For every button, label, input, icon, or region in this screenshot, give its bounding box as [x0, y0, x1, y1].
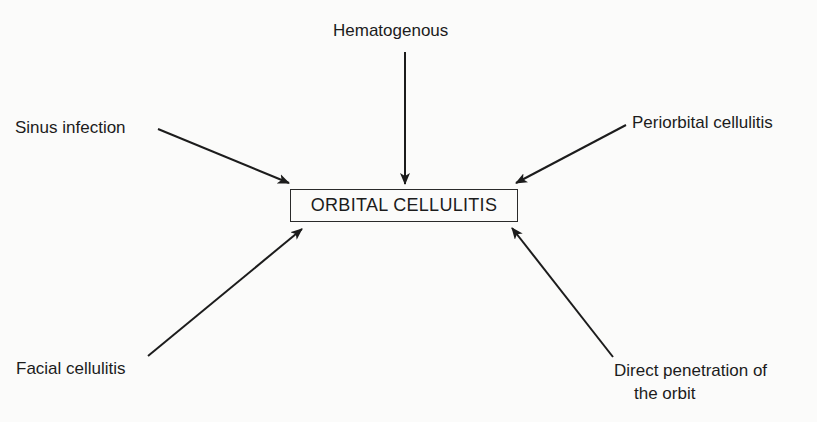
label-direct-penetration-line2: the orbit — [634, 384, 695, 404]
center-node-orbital-cellulitis: ORBITAL CELLULITIS — [290, 189, 518, 222]
label-hematogenous: Hematogenous — [333, 21, 448, 41]
label-direct-penetration-line1: Direct penetration of — [614, 361, 767, 381]
label-sinus-infection: Sinus infection — [15, 118, 126, 138]
center-node-label: ORBITAL CELLULITIS — [311, 195, 497, 216]
arrow-periorbital-cellulitis — [516, 125, 626, 183]
arrow-facial-cellulitis — [148, 229, 302, 356]
label-periorbital-cellulitis: Periorbital cellulitis — [632, 113, 773, 133]
label-facial-cellulitis: Facial cellulitis — [16, 359, 126, 379]
arrow-sinus-infection — [158, 129, 289, 183]
arrow-direct-penetration — [512, 228, 613, 357]
